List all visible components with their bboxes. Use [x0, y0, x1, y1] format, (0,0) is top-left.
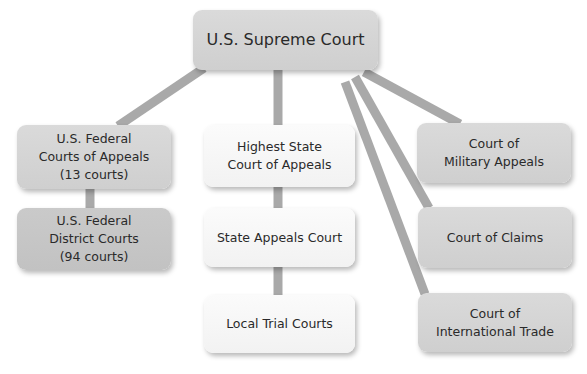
node-label: U.S. Federal Courts of Appeals (13 court… [39, 130, 150, 184]
node-local-trial-courts: Local Trial Courts [204, 295, 355, 353]
node-label: State Appeals Court [217, 229, 342, 247]
node-label: Highest State Court of Appeals [227, 138, 331, 174]
node-label: U.S. Federal District Courts (94 courts) [49, 212, 139, 266]
node-federal-courts-of-appeals: U.S. Federal Courts of Appeals (13 court… [17, 125, 171, 189]
edge-supreme-fed-appeals [118, 68, 204, 126]
node-highest-state-court: Highest State Court of Appeals [204, 125, 355, 187]
node-supreme-court: U.S. Supreme Court [193, 10, 378, 70]
node-label: Court of Military Appeals [444, 135, 544, 171]
node-label: Court of International Trade [436, 305, 554, 341]
node-state-appeals-court: State Appeals Court [204, 208, 355, 267]
node-label: U.S. Supreme Court [206, 31, 364, 49]
node-label: Court of Claims [447, 229, 543, 247]
node-label: Local Trial Courts [226, 315, 333, 333]
node-federal-district-courts: U.S. Federal District Courts (94 courts) [17, 208, 171, 270]
node-court-of-international-trade: Court of International Trade [418, 293, 572, 352]
node-court-of-claims: Court of Claims [418, 207, 572, 268]
node-court-of-military-appeals: Court of Military Appeals [417, 123, 571, 183]
